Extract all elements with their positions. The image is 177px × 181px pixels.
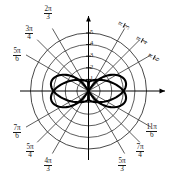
angle-label-4pi-3: 4π3: [44, 158, 52, 173]
angle-label-7pi-4: 7π4: [136, 144, 144, 159]
radial-tick-4: 4: [90, 40, 93, 46]
angle-label-7pi-4-den: 4: [136, 152, 144, 159]
angle-label-5pi-6-den: 6: [13, 56, 21, 63]
radial-tick-5: 5: [90, 29, 93, 35]
axes: [20, 16, 165, 160]
angle-label-4pi-3-den: 3: [44, 166, 52, 173]
angle-label-5pi-4-den: 4: [26, 152, 34, 159]
angle-label-11pi-6: 11π6: [146, 124, 157, 139]
polar-rose-chart: π6 π4 π3 2π3 3π4 5π6 7π6 5π4 4π3 5π3 7π4…: [0, 0, 177, 181]
angle-label-7pi-6: 7π6: [13, 125, 21, 140]
angle-label-2pi-3-den: 3: [44, 14, 52, 21]
angle-label-5pi-6: 5π6: [13, 48, 21, 63]
angle-label-2pi-3: 2π3: [44, 6, 52, 21]
angle-label-5pi-3: 5π3: [118, 158, 126, 173]
angle-label-5pi-3-den: 3: [118, 166, 126, 173]
radial-tick-1: 1: [90, 75, 93, 81]
angle-label-3pi-4-den: 4: [25, 34, 33, 41]
radial-tick-3: 3: [90, 52, 93, 58]
angle-label-5pi-4: 5π4: [26, 144, 34, 159]
radial-tick-2: 2: [90, 64, 93, 70]
angle-label-3pi-4: 3π4: [25, 26, 33, 41]
angle-label-7pi-6-den: 6: [13, 133, 21, 140]
angle-label-11pi-6-den: 6: [146, 132, 157, 139]
